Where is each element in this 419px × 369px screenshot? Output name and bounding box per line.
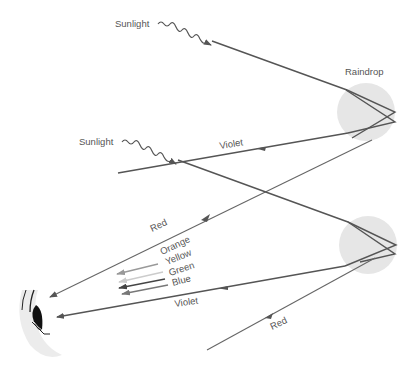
label-red-top: Red <box>148 216 168 233</box>
orange-ray <box>117 264 158 274</box>
label-raindrop: Raindrop <box>345 66 384 77</box>
label-sunlight-bottom: Sunlight <box>79 136 114 147</box>
label-violet-top: Violet <box>219 136 244 151</box>
red-ray-bottom <box>207 258 375 350</box>
raindrop-top <box>337 83 395 141</box>
sunlight-wave-top <box>158 22 211 45</box>
sunlight-wave-bottom <box>122 140 176 164</box>
red-ray-top <box>50 140 372 297</box>
label-sunlight-top: Sunlight <box>115 18 150 29</box>
rainbow-diagram: Sunlight Sunlight Raindrop Violet Red Or… <box>0 0 419 369</box>
label-violet-bottom: Violet <box>174 295 199 309</box>
eye-icon <box>19 290 62 357</box>
violet-ray-bottom <box>57 266 345 317</box>
